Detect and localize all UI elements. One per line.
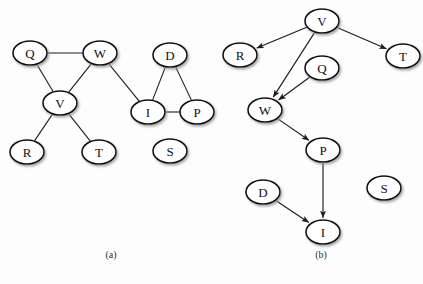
node-panel-b-P[interactable]: P <box>306 138 340 162</box>
edge-D-P <box>175 66 191 100</box>
node-ellipse-D[interactable] <box>153 43 187 67</box>
node-panel-a-Q[interactable]: Q <box>13 41 47 65</box>
caption-panel-a: (a) <box>105 249 116 261</box>
node-ellipse-I[interactable] <box>131 100 165 124</box>
edge-V-T <box>68 113 90 141</box>
node-panel-b-S[interactable]: S <box>367 176 401 200</box>
node-panel-a-I[interactable]: I <box>131 100 165 124</box>
node-panel-b-W[interactable]: W <box>248 98 282 122</box>
node-ellipse-V[interactable] <box>305 9 339 33</box>
edge-Q-V <box>37 64 54 92</box>
node-panel-b-I[interactable]: I <box>306 220 340 244</box>
node-panel-a-W[interactable]: W <box>83 41 117 65</box>
node-ellipse-Q[interactable] <box>13 41 47 65</box>
node-panel-b-T[interactable]: T <box>386 44 420 68</box>
node-ellipse-W[interactable] <box>248 98 282 122</box>
node-panel-b-V[interactable]: V <box>305 9 339 33</box>
directed-edge-V-R <box>257 27 308 48</box>
node-panel-a-R[interactable]: R <box>10 140 44 164</box>
node-ellipse-Q[interactable] <box>305 56 339 80</box>
node-ellipse-T[interactable] <box>386 44 420 68</box>
node-ellipse-D[interactable] <box>246 180 280 204</box>
node-panel-a-T[interactable]: T <box>82 140 116 164</box>
directed-edge-W-P <box>277 118 309 140</box>
captions-layer: (a)(b) <box>105 249 326 261</box>
directed-edge-V-T <box>337 27 387 49</box>
edge-V-R <box>34 114 52 141</box>
node-panel-a-D[interactable]: D <box>153 43 187 67</box>
node-panel-a-V[interactable]: V <box>43 91 77 115</box>
node-ellipse-P[interactable] <box>180 100 214 124</box>
node-panel-a-P[interactable]: P <box>180 100 214 124</box>
node-ellipse-V[interactable] <box>43 91 77 115</box>
node-ellipse-R[interactable] <box>223 43 257 67</box>
node-ellipse-S[interactable] <box>153 139 187 163</box>
node-ellipse-I[interactable] <box>306 220 340 244</box>
directed-edge-Q-W <box>279 77 311 100</box>
node-panel-a-S[interactable]: S <box>153 139 187 163</box>
caption-panel-b: (b) <box>315 249 327 261</box>
node-ellipse-W[interactable] <box>83 41 117 65</box>
edge-V-W <box>68 63 91 92</box>
graph-figure: QWVRTDIPSVRTQWPDIS (a)(b) <box>0 0 423 284</box>
nodes-layer: QWVRTDIPSVRTQWPDIS <box>10 9 420 244</box>
node-ellipse-P[interactable] <box>306 138 340 162</box>
edge-D-I <box>152 67 165 101</box>
node-panel-b-Q[interactable]: Q <box>305 56 339 80</box>
node-ellipse-S[interactable] <box>367 176 401 200</box>
directed-edge-D-I <box>275 200 308 222</box>
figure-canvas: QWVRTDIPSVRTQWPDIS (a)(b) <box>0 0 423 284</box>
node-panel-b-R[interactable]: R <box>223 43 257 67</box>
edge-W-I <box>108 63 139 101</box>
node-ellipse-R[interactable] <box>10 140 44 164</box>
node-ellipse-T[interactable] <box>82 140 116 164</box>
node-panel-b-D[interactable]: D <box>246 180 280 204</box>
